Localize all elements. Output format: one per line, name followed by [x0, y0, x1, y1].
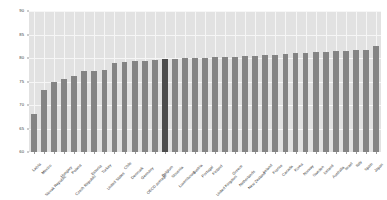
bar[interactable] [71, 76, 77, 152]
x-axis-tick-label-text: United Kingdom [216, 175, 238, 197]
x-axis-tick-mark [114, 152, 115, 154]
x-axis-tick-label-text: Czech Republic [75, 174, 97, 196]
x-axis-tick-mark [185, 152, 186, 154]
y-axis-tick-label: 80 [19, 56, 24, 60]
bar[interactable] [132, 61, 138, 152]
bar[interactable] [262, 55, 268, 152]
bar[interactable] [122, 62, 128, 152]
x-axis-tick-mark [104, 152, 105, 154]
x-axis-tick-mark [235, 152, 236, 154]
x-axis-tick-label-text: Spain [364, 162, 374, 172]
bar[interactable] [162, 59, 168, 152]
plot-area [29, 11, 381, 152]
bar-chart-figure: 60657075808590 LatviaMexicoSlovak Republ… [0, 0, 387, 200]
x-axis: LatviaMexicoSlovak RepublicHungaryPoland… [29, 152, 381, 200]
bar[interactable] [91, 71, 97, 152]
x-axis-tick-mark [205, 152, 206, 154]
x-axis-tick-mark [125, 152, 126, 154]
x-axis-tick-mark [225, 152, 226, 154]
bar[interactable] [182, 58, 188, 152]
x-axis-tick-mark [74, 152, 75, 154]
x-axis-tick-mark [356, 152, 357, 154]
x-axis-tick-mark [346, 152, 347, 154]
y-axis: 60657075808590 [0, 11, 29, 152]
bar[interactable] [202, 58, 208, 152]
bar[interactable] [373, 46, 379, 152]
bar[interactable] [343, 51, 349, 152]
x-axis-tick-mark [94, 152, 95, 154]
x-axis-tick-label: Mexico [50, 155, 61, 166]
bar[interactable] [142, 61, 148, 152]
bar[interactable] [232, 57, 238, 152]
y-axis-tick-label: 60 [19, 150, 24, 154]
x-axis-tick-mark [155, 152, 156, 154]
x-axis-tick-mark [34, 152, 35, 154]
bar[interactable] [272, 55, 278, 152]
bar[interactable] [323, 52, 329, 152]
x-axis-tick-mark [165, 152, 166, 154]
y-axis-tick-label: 65 [19, 126, 24, 130]
bar[interactable] [51, 82, 57, 153]
bar[interactable] [353, 50, 359, 152]
x-axis-tick-mark [135, 152, 136, 154]
x-axis-tick-mark [336, 152, 337, 154]
bar[interactable] [41, 90, 47, 152]
bar[interactable] [333, 51, 339, 152]
x-axis-tick-mark [64, 152, 65, 154]
x-axis-tick-label-text: United States [107, 172, 126, 191]
bar[interactable] [293, 53, 299, 152]
x-axis-tick-mark [326, 152, 327, 154]
bar[interactable] [242, 56, 248, 152]
x-axis-tick-mark [366, 152, 367, 154]
x-axis-tick-mark [255, 152, 256, 154]
x-axis-tick-mark [296, 152, 297, 154]
y-axis-tick-label: 85 [19, 32, 24, 36]
x-axis-tick-label-text: Canada [282, 165, 294, 177]
x-axis-tick-label-text: Slovak Republic [45, 175, 67, 197]
y-axis-tick-label: 75 [19, 79, 24, 83]
bar[interactable] [252, 56, 258, 152]
bar[interactable] [31, 114, 37, 152]
x-axis-tick-mark [195, 152, 196, 154]
bar[interactable] [152, 60, 158, 152]
x-axis-tick-mark [175, 152, 176, 154]
x-axis-tick-mark [245, 152, 246, 154]
bar[interactable] [192, 58, 198, 152]
bar[interactable] [303, 53, 309, 152]
x-axis-tick-mark [44, 152, 45, 154]
y-axis-tick-label: 90 [19, 9, 24, 13]
x-axis-tick-label-text: Mexico [41, 164, 52, 175]
x-axis-tick-mark [376, 152, 377, 154]
bar[interactable] [102, 70, 108, 152]
x-axis-tick-mark [316, 152, 317, 154]
x-axis-tick-mark [54, 152, 55, 154]
bar[interactable] [172, 59, 178, 152]
x-axis-tick-mark [215, 152, 216, 154]
bar[interactable] [61, 79, 67, 152]
bar[interactable] [313, 52, 319, 152]
x-axis-tick-mark [275, 152, 276, 154]
bar[interactable] [212, 57, 218, 152]
x-axis-tick-label-text: Japan [374, 163, 384, 173]
x-axis-tick-mark [306, 152, 307, 154]
x-axis-tick-label: Japan [381, 155, 387, 165]
x-axis-tick-label-text: Italy [355, 160, 363, 168]
bar[interactable] [363, 50, 369, 152]
x-axis-tick-mark [84, 152, 85, 154]
bar[interactable] [283, 54, 289, 152]
x-axis-tick-mark [145, 152, 146, 154]
x-axis-tick-mark [285, 152, 286, 154]
x-axis-tick-mark [265, 152, 266, 154]
bar[interactable] [112, 63, 118, 152]
y-axis-tick-label: 70 [19, 103, 24, 107]
bar[interactable] [81, 71, 87, 152]
bars-group [29, 11, 381, 152]
x-axis-tick-label: Italy [360, 155, 368, 163]
bar[interactable] [222, 57, 228, 152]
